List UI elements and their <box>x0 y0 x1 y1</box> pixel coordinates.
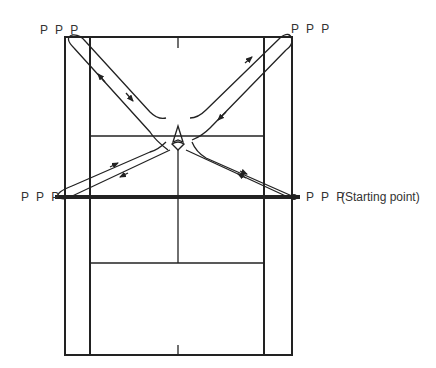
path-top-right-in <box>192 50 286 140</box>
start-point-dot <box>291 194 297 200</box>
path-top-left-out <box>74 48 168 150</box>
label-top-left: P P P <box>40 23 80 37</box>
label-top-right: P P P <box>291 22 331 36</box>
path-right-out <box>192 142 292 196</box>
label-mid-left: P P P <box>21 190 61 204</box>
court-diagram <box>0 0 436 368</box>
center-base-marker <box>172 126 184 150</box>
path-top-left-in <box>86 42 166 118</box>
path-left-in <box>68 150 170 198</box>
footwork-paths <box>58 34 292 198</box>
path-left-out <box>72 142 166 186</box>
path-top-right-out <box>190 38 280 118</box>
label-starting-point: (Starting point) <box>341 190 420 204</box>
